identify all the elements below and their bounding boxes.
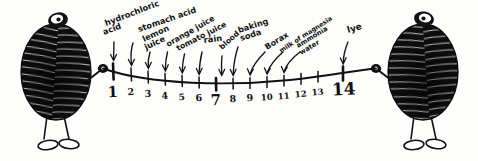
tick-label-13: 13 xyxy=(311,86,324,97)
tick-label-9: 9 xyxy=(246,92,254,103)
arrow-blood xyxy=(221,56,222,74)
tick-label-1: 1 xyxy=(107,83,118,102)
tick-label-5: 5 xyxy=(178,92,185,102)
tick-1 xyxy=(113,64,114,80)
tick-label-3: 3 xyxy=(144,88,151,99)
tick-label-2: 2 xyxy=(127,86,134,97)
tick-label-10: 10 xyxy=(261,92,274,103)
tick-label-11: 11 xyxy=(277,91,290,102)
tick-label-6: 6 xyxy=(195,92,203,103)
tick-2 xyxy=(131,68,132,81)
tick-label-8: 8 xyxy=(229,93,237,104)
tick-label-4: 4 xyxy=(161,90,169,102)
tick-label-14: 14 xyxy=(331,78,356,99)
ph-scale-illustration: 1 2 3 4 5 6 7 8 9 10 11 12 13 14 xyxy=(0,0,478,161)
tick-label-12: 12 xyxy=(294,89,307,100)
tick-label-7: 7 xyxy=(210,91,221,109)
illustration-canvas: 1 2 3 4 5 6 7 8 9 10 11 12 13 14 xyxy=(0,0,478,161)
